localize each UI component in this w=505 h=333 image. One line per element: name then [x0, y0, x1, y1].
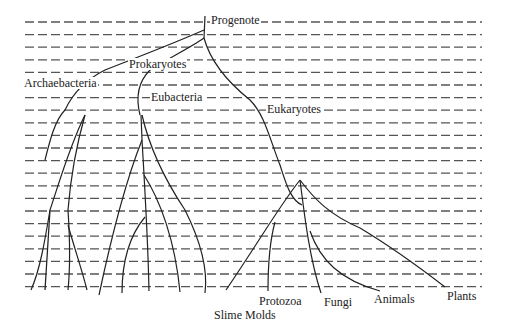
leaf-label-animals: Animals — [373, 293, 416, 305]
node-label-progenote: Progenote — [210, 14, 261, 26]
node-label-prokaryotes: Prokaryotes — [128, 58, 187, 70]
leaf-label-plants: Plants — [446, 290, 477, 302]
leaf-label-protozoa: Protozoa — [258, 295, 303, 307]
time-gridlines — [25, 22, 482, 287]
node-label-eukaryotes: Eukaryotes — [266, 103, 322, 115]
leaf-label-slime-molds: Slime Molds — [213, 309, 277, 321]
phylogenetic-tree-diagram — [0, 0, 505, 333]
tree-branches — [31, 16, 445, 295]
node-label-archaebacteria: Archaebacteria — [23, 77, 98, 89]
leaf-label-fungi: Fungi — [323, 296, 353, 308]
node-label-eubacteria: Eubacteria — [150, 91, 203, 103]
